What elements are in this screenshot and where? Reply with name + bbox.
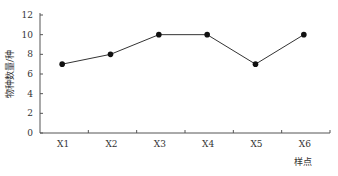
y-tick-label: 10: [22, 30, 34, 40]
data-point-marker: [204, 32, 210, 38]
y-axis: 024681012: [22, 10, 43, 138]
data-point-marker: [253, 61, 259, 67]
series-line: [62, 35, 304, 64]
y-tick-label: 0: [27, 128, 33, 138]
x-tick-label: X5: [250, 139, 262, 149]
x-tick-label: X3: [154, 139, 166, 149]
data-point-marker: [301, 32, 307, 38]
data-series: [59, 32, 306, 67]
x-axis: X1X2X3X4X5X6: [40, 130, 330, 149]
data-point-marker: [108, 52, 114, 58]
x-tick-label: X2: [105, 139, 117, 149]
data-point-marker: [156, 32, 162, 38]
x-tick-label: X6: [299, 139, 311, 149]
y-tick-label: 2: [27, 108, 33, 118]
y-tick-label: 8: [27, 49, 33, 59]
x-tick-label: X1: [57, 139, 69, 149]
y-tick-label: 6: [27, 69, 33, 79]
x-axis-title: 样点: [294, 156, 312, 167]
data-point-marker: [59, 61, 65, 67]
y-tick-label: 12: [22, 10, 33, 20]
y-tick-label: 4: [27, 89, 33, 99]
x-tick-label: X4: [202, 139, 214, 149]
line-chart: 024681012 X1X2X3X4X5X6 物种数量/种 样点: [0, 0, 338, 176]
y-axis-title: 物种数量/种: [4, 50, 15, 98]
